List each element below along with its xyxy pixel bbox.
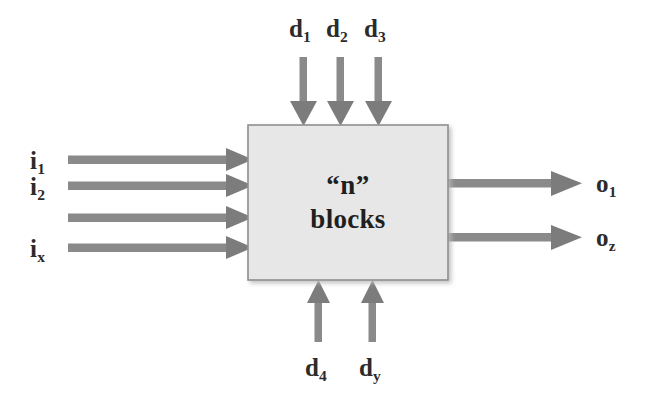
top-disturbance-label-d1-base: d [289,15,303,42]
top-disturbance-label-d2-sub: 2 [340,28,348,45]
top-disturbance-label-d2: d2 [326,16,348,41]
bottom-disturbance-arrow-group [307,280,384,342]
bottom-disturbance-label-d4: d4 [305,355,327,380]
top-disturbance-label-d2-base: d [326,15,340,42]
top-disturbance-label-d1-sub: 1 [303,28,311,45]
input-label-ix-sub: x [37,248,45,265]
input-label-i2: i2 [30,174,45,199]
output-label-oz-sub: z [609,237,616,254]
output-label-oz: oz [596,225,616,250]
bottom-disturbance-label-d4-base: d [305,354,319,381]
input-arrow-2 [68,174,253,197]
top-disturbance-arrow-1 [290,57,317,126]
input-arrow-4 [68,236,253,259]
output-label-oz-base: o [596,224,609,251]
input-label-i1: i1 [30,148,45,173]
input-arrow-1 [68,148,253,171]
output-arrow-2 [448,225,582,250]
input-label-ix: ix [30,236,45,261]
bottom-disturbance-label-dy-sub: y [373,367,381,384]
output-label-o1-sub: 1 [609,183,617,200]
bottom-disturbance-label-d4-sub: 4 [319,367,327,384]
top-disturbance-arrow-2 [327,57,354,126]
input-arrow-3 [68,206,253,229]
top-disturbance-label-d3-base: d [364,15,378,42]
input-label-i2-sub: 2 [37,186,45,203]
top-disturbance-arrow-3 [365,57,392,126]
top-disturbance-label-d1: d1 [289,16,311,41]
block-diagram-canvas: “n” blocks i1 i2 ix o1 oz d1 d2 d3 d4 dy [0,0,653,411]
output-arrow-group [448,171,582,250]
output-label-o1: o1 [596,171,616,196]
top-disturbance-arrow-group [290,57,392,126]
bottom-disturbance-arrow-1 [307,280,330,342]
output-arrow-1 [448,171,582,196]
central-block [248,125,448,280]
output-label-o1-base: o [596,170,609,197]
diagram-vector-layer [0,0,653,411]
top-disturbance-label-d3: d3 [364,16,386,41]
input-arrow-group [68,148,253,259]
top-disturbance-label-d3-sub: 3 [378,28,386,45]
bottom-disturbance-arrow-2 [361,280,384,342]
bottom-disturbance-label-dy-base: d [359,354,373,381]
bottom-disturbance-label-dy: dy [359,355,381,380]
